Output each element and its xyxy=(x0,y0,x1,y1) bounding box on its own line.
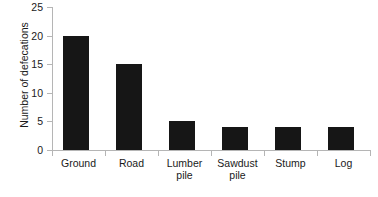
x-tick-mark-1 xyxy=(105,151,106,156)
x-tick-mark-6 xyxy=(370,151,371,156)
bar-chart-figure: Number of defecations 0 5 10 15 20 25 Gr… xyxy=(0,0,378,197)
x-tick-mark-3 xyxy=(211,151,212,156)
y-axis-title: Number of defecations xyxy=(18,0,30,150)
y-tick-label-10: 10 xyxy=(0,88,43,99)
y-tick-label-5: 5 xyxy=(0,116,43,127)
bar-ground xyxy=(63,36,89,150)
bar-log xyxy=(328,127,354,150)
y-tick-label-20: 20 xyxy=(0,31,43,42)
x-tick-mark-0 xyxy=(52,151,53,156)
y-tick-label-25: 25 xyxy=(0,2,43,13)
bar-stump xyxy=(275,127,301,150)
plot-area xyxy=(52,7,370,150)
bar-sawdust-pile xyxy=(222,127,248,150)
x-tick-mark-4 xyxy=(264,151,265,156)
y-tick-label-15: 15 xyxy=(0,59,43,70)
x-tick-mark-2 xyxy=(158,151,159,156)
bar-road xyxy=(116,64,142,150)
x-category-label-stump: Stump xyxy=(264,158,317,170)
y-tick-label-0: 0 xyxy=(0,145,43,156)
x-category-label-road: Road xyxy=(105,158,158,170)
x-category-label-log: Log xyxy=(317,158,370,170)
x-category-label-sawdust-pile: Sawdust pile xyxy=(211,158,264,181)
x-category-label-lumber-pile: Lumber pile xyxy=(158,158,211,181)
x-tick-mark-5 xyxy=(317,151,318,156)
bar-lumber-pile xyxy=(169,121,195,150)
x-category-label-ground: Ground xyxy=(52,158,105,170)
